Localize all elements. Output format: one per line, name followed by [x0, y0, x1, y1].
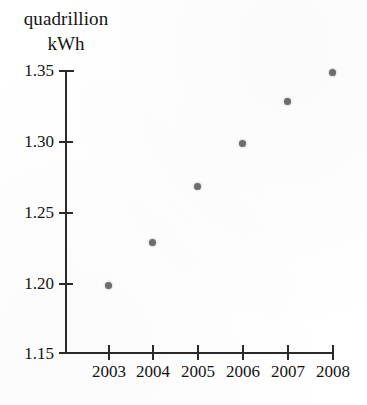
- x-axis-tick-2003: [108, 345, 110, 360]
- y-axis-label-1-20: 1.20: [8, 275, 54, 292]
- data-point-2003: [105, 282, 112, 289]
- scatter-chart: quadrillion kWh 1.35 1.30 1.25 1.20 1.15…: [0, 0, 367, 405]
- x-axis-label-2008: 2008: [305, 362, 361, 381]
- y-axis-label-1-35: 1.35: [8, 62, 54, 79]
- x-axis-tick-2006: [242, 345, 244, 360]
- y-axis-label-1-15: 1.15: [8, 345, 54, 362]
- x-axis-tick-2005: [197, 345, 199, 360]
- y-axis-label-1-30: 1.30: [8, 133, 54, 150]
- data-point-2007: [284, 98, 291, 105]
- x-axis-line: [65, 352, 334, 354]
- y-axis-tick-1-15: [59, 352, 73, 354]
- y-axis-label-1-25: 1.25: [8, 204, 54, 221]
- data-point-2004: [149, 239, 156, 246]
- y-axis-tick-1-20: [59, 283, 73, 285]
- data-point-2005: [194, 183, 201, 190]
- data-point-2008: [329, 69, 336, 76]
- y-axis-tick-1-35: [59, 70, 74, 72]
- plot-area: 1.35 1.30 1.25 1.20 1.15 2003 2004 2005 …: [0, 0, 367, 405]
- data-point-2006: [239, 140, 246, 147]
- y-axis-tick-1-25: [59, 212, 73, 214]
- x-axis-tick-2008: [332, 345, 334, 360]
- x-axis-tick-2004: [152, 345, 154, 360]
- y-axis-tick-1-30: [59, 141, 73, 143]
- x-axis-tick-2007: [287, 345, 289, 360]
